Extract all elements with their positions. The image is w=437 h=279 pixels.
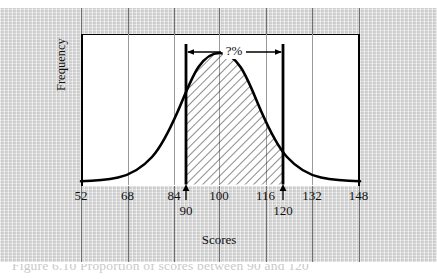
x-axis-title: Scores — [202, 232, 237, 248]
figure-container: ?% 52 68 84 100 116 132 148 90 120 Frequ… — [0, 0, 437, 279]
distribution-curve-layer — [81, 34, 360, 185]
marker-label-120: 120 — [273, 203, 293, 219]
xtick-label-148: 148 — [349, 188, 369, 204]
xtick-label-132: 132 — [302, 188, 322, 204]
xtick-label-100: 100 — [209, 188, 229, 204]
xtick-label-116: 116 — [256, 188, 275, 204]
figure-caption-strip: Figure 6.10 Proportion of scores between… — [0, 264, 437, 279]
shaded-region — [81, 53, 360, 185]
xtick-label-52: 52 — [75, 188, 88, 204]
marker-label-90: 90 — [180, 203, 193, 219]
y-axis-title: Frequency — [52, 73, 70, 91]
xtick-label-68: 68 — [121, 188, 134, 204]
shaded-region-percent-label: ?% — [223, 43, 246, 59]
figure-caption-text: Figure 6.10 Proportion of scores between… — [12, 264, 309, 274]
xtick-label-84: 84 — [168, 188, 181, 204]
